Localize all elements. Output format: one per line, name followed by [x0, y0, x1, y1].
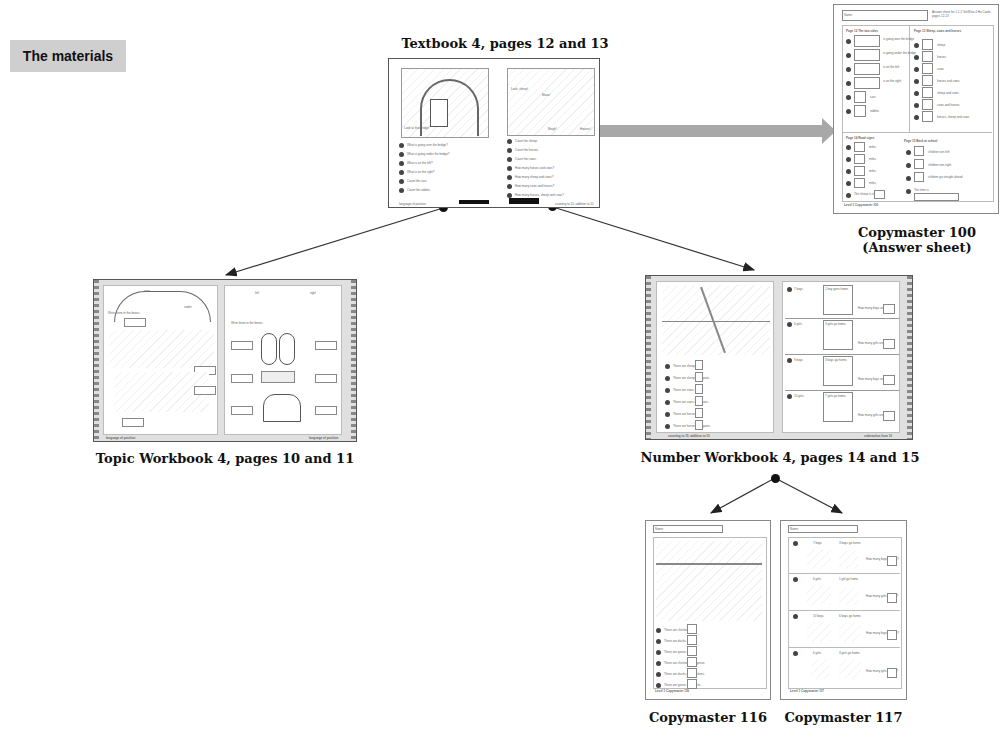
answer-box — [887, 668, 897, 678]
answer-box — [687, 679, 697, 689]
illustration — [839, 551, 859, 569]
illustration — [839, 622, 861, 642]
answer-box — [695, 384, 703, 394]
question-number-bullet — [656, 650, 661, 655]
answer-box — [695, 420, 703, 430]
page-text: Page 15 Back at school — [904, 139, 937, 143]
topic-page-right: left right Write them in the boxes. — [224, 285, 342, 435]
question-number-bullet — [787, 287, 792, 292]
decoration — [656, 563, 762, 565]
page-text: 1 girl go home. — [839, 577, 859, 581]
page-text: Level 1 Copymaster 116 — [655, 689, 689, 693]
answer-box — [231, 374, 253, 383]
illustration — [109, 330, 214, 368]
answer-box — [914, 159, 924, 169]
illustration — [807, 585, 831, 605]
poultry-illustration — [656, 541, 762, 621]
decoration — [430, 99, 448, 127]
answer-box — [922, 39, 933, 50]
spiral-binding-edge — [907, 276, 912, 439]
page-text: Name: — [790, 527, 799, 531]
decoration — [226, 208, 443, 275]
page-text: 6 girls — [813, 651, 821, 655]
answer-box — [687, 657, 697, 667]
illustration — [839, 587, 859, 605]
page-text: sheep — [937, 43, 945, 47]
page-text: Look, sheep! — [511, 87, 528, 91]
copymaster-117-caption: Copymaster 117 — [775, 710, 912, 725]
page-text: language of position — [106, 436, 135, 440]
answer-box — [887, 630, 897, 640]
page-text: Answer sheet for 1.1-2 Go/Wise 4 Ho Card… — [932, 10, 994, 18]
question-number-bullet — [846, 181, 851, 186]
page-text: sheep and cows — [937, 91, 959, 95]
question-number-bullet — [906, 150, 911, 155]
question-number-bullet — [507, 139, 512, 144]
decoration — [553, 207, 754, 270]
question-number-bullet — [914, 115, 919, 120]
decoration — [700, 287, 726, 353]
answer-box — [261, 371, 295, 383]
question-number-bullet — [399, 179, 404, 184]
page-text: There are horses. — [673, 412, 697, 416]
answer-box — [922, 87, 933, 98]
spiral-binding-edge — [646, 276, 651, 439]
decoration — [788, 573, 900, 574]
page-text: counting to 10, addition to 10 — [555, 202, 594, 206]
answer-box — [883, 339, 895, 349]
answer-box — [231, 341, 253, 350]
page-text: Page 13 Sheep, cows and horses — [914, 29, 961, 33]
question-number-bullet — [793, 651, 798, 656]
illustration — [811, 659, 829, 679]
page-text: cows and horses — [937, 103, 960, 107]
page-text: There are chickens and geese. — [664, 661, 705, 665]
page-text: is going under the bridge — [883, 51, 916, 55]
question-number-bullet — [846, 95, 851, 100]
page-text: Count the cars. — [407, 179, 427, 183]
page-text: right — [310, 291, 316, 295]
question-number-bullet — [656, 628, 661, 633]
page-text: Hooves! — [580, 127, 591, 131]
page-text: There are horses and goats. — [673, 424, 711, 428]
question-number-bullet — [399, 152, 404, 157]
page-text: 9 boys — [794, 358, 803, 362]
answer-box — [854, 154, 865, 164]
page-text: How many horses, sheep and cows? — [515, 193, 564, 197]
page-text: Write them in the boxes. — [108, 311, 140, 315]
question-number-bullet — [914, 79, 919, 84]
copymaster-100-sheet: Name: Answer sheet for 1.1-2 Go/Wise 4 H… — [833, 4, 999, 214]
page-text: Count the horses. — [515, 148, 539, 152]
page-text: miles — [869, 145, 876, 149]
number-workbook-caption: Number Workbook 4, pages 14 and 15 — [640, 450, 920, 465]
answer-box — [122, 418, 144, 427]
page-text: Mooo! — [542, 93, 550, 97]
answer-box — [883, 304, 895, 314]
question-number-bullet — [846, 157, 851, 162]
page-text: is on the right — [883, 79, 901, 83]
answer-box — [687, 646, 697, 656]
spiral-binding-edge — [351, 280, 356, 441]
page-text: 7 boys — [813, 541, 822, 545]
decoration — [600, 125, 822, 137]
page-text: children go straight ahead — [928, 175, 963, 179]
answer-box — [922, 51, 933, 62]
decoration — [775, 478, 842, 513]
page-text: What is on the left? — [407, 161, 433, 165]
answer-box — [922, 75, 933, 86]
question-number-bullet — [793, 614, 798, 619]
page-text: How many horses and cows? — [515, 166, 554, 170]
page-text: Name: — [655, 527, 664, 531]
answer-box — [854, 77, 880, 89]
question-number-bullet — [656, 672, 661, 677]
answer-box — [887, 556, 897, 566]
page-text: Page 12 The two sides — [846, 29, 878, 33]
question-number-bullet — [787, 322, 792, 327]
question-number-bullet — [846, 169, 851, 174]
page-text: miles — [869, 181, 876, 185]
answer-box — [922, 99, 933, 110]
page-text: is going over the bridge — [883, 37, 914, 41]
page-text: subtraction from 10 — [864, 434, 892, 438]
decoration — [842, 132, 992, 133]
page-text: children turn right — [928, 163, 951, 167]
illustration — [807, 549, 831, 569]
